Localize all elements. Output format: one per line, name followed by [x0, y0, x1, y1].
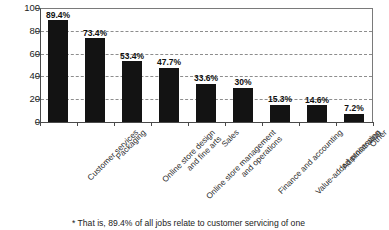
x-category-line-1: Finance and accounting — [276, 128, 344, 196]
bar-value-label-finance-and-accounting: 30% — [221, 78, 265, 87]
chart-footnote: * That is, 89.4% of all jobs relate to c… — [72, 218, 305, 228]
x-tick-mark-1 — [77, 122, 78, 126]
x-tick-mark-3 — [151, 122, 152, 126]
bar-value-label-other: 7.2% — [332, 104, 376, 113]
bar-value-label-packaging: 73.4% — [73, 29, 117, 38]
x-tick-mark-7 — [299, 122, 300, 126]
x-tick-mark-9 — [373, 122, 374, 126]
bar-finance-and-accounting — [233, 88, 253, 122]
x-category-line-1: Sales — [220, 128, 241, 149]
x-tick-mark-0 — [40, 122, 41, 126]
x-category-label-sales: Sales — [220, 128, 241, 149]
bar-value-label-customer-services: 89.4% — [36, 11, 80, 20]
x-tick-mark-5 — [225, 122, 226, 126]
bar-sales — [196, 84, 216, 122]
x-tick-mark-2 — [114, 122, 115, 126]
bar-online-store-management — [159, 68, 179, 122]
bar-packaging — [85, 38, 105, 122]
x-tick-mark-6 — [262, 122, 263, 126]
y-tick-mark-40 — [35, 76, 40, 77]
y-tick-mark-100 — [35, 8, 40, 9]
bar-administration — [307, 105, 327, 122]
bar-customer-services — [48, 20, 68, 122]
x-axis-line — [40, 122, 374, 123]
y-tick-mark-60 — [35, 54, 40, 55]
bar-value-label-online-store-management: 47.7% — [147, 58, 191, 67]
x-category-label-finance-and-accounting: Finance and accounting — [276, 128, 344, 196]
x-category-label-online-store-design: Online store design and fine arts — [161, 128, 224, 191]
bar-other — [344, 114, 364, 122]
bar-online-store-design — [122, 61, 142, 122]
x-tick-mark-4 — [188, 122, 189, 126]
x-tick-mark-8 — [336, 122, 337, 126]
bar-value-added-processing — [270, 105, 290, 122]
y-tick-mark-20 — [35, 99, 40, 100]
y-tick-mark-80 — [35, 31, 40, 32]
